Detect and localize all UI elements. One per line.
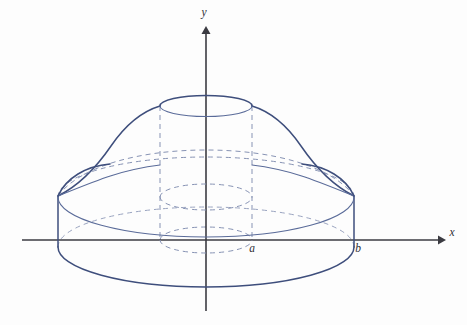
y-axis-label: y bbox=[200, 6, 207, 19]
flare-base-front-arc bbox=[58, 165, 160, 196]
label-a: a bbox=[249, 242, 255, 254]
solid-of-revolution-figure: x y bbox=[0, 0, 467, 325]
x-axis: x bbox=[22, 226, 455, 245]
y-axis: y bbox=[200, 6, 210, 311]
flare-base-front-arc-right bbox=[252, 165, 354, 196]
figure-canvas: x y bbox=[0, 0, 467, 325]
x-axis-label: x bbox=[448, 226, 455, 238]
label-b: b bbox=[355, 242, 361, 254]
profile-curve-right bbox=[252, 106, 354, 196]
profile-curve-left bbox=[58, 106, 160, 196]
